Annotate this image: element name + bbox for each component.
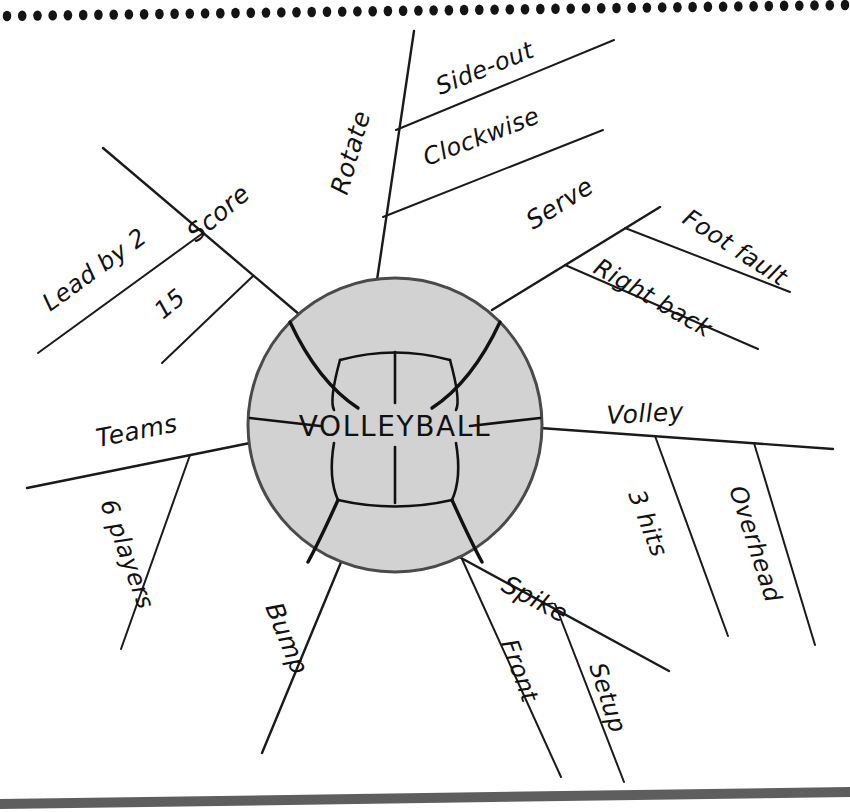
branch-bump[interactable]: Bump xyxy=(259,555,344,753)
binding-dot xyxy=(582,3,591,13)
branch-score[interactable]: Score Lead by 2 15 xyxy=(37,148,300,363)
sub-label-side-out: Side-out xyxy=(432,36,539,101)
binding-dot xyxy=(201,8,210,18)
binding-dot xyxy=(460,5,469,15)
branch-rotate[interactable]: Rotate Side-out Clockwise xyxy=(325,31,614,280)
branch-label-rotate: Rotate xyxy=(325,108,376,198)
binding-dot xyxy=(643,2,652,12)
sub-label-6-players: 6 players xyxy=(94,495,159,612)
binding-dot xyxy=(247,8,256,18)
binding-dot xyxy=(231,8,240,18)
mindmap-page: Score Lead by 2 15 Rotate Side-out Clock… xyxy=(0,0,850,812)
binding-dot xyxy=(536,4,545,14)
binding-dot xyxy=(445,5,454,15)
binding-dot xyxy=(125,9,134,19)
branch-label-serve: Serve xyxy=(521,171,599,235)
top-dotted-border xyxy=(3,0,850,21)
branch-line-rotate xyxy=(377,31,414,280)
binding-dot xyxy=(338,6,347,16)
binding-dot xyxy=(186,8,195,18)
binding-dot xyxy=(521,4,530,14)
branch-label-volley: Volley xyxy=(606,397,686,430)
binding-dot xyxy=(170,9,179,19)
branch-line-volley xyxy=(540,428,833,449)
binding-dot xyxy=(627,3,636,13)
branch-label-spike: Spike xyxy=(497,570,573,629)
binding-dot xyxy=(414,5,423,15)
binding-dot xyxy=(490,4,499,14)
binding-dot xyxy=(658,2,667,12)
branch-serve[interactable]: Serve Foot fault Right back xyxy=(492,171,793,349)
binding-dot xyxy=(277,7,286,17)
binding-dot xyxy=(704,2,713,12)
binding-dot xyxy=(48,10,57,20)
binding-dot xyxy=(368,6,377,16)
binding-dot xyxy=(673,2,682,12)
binding-dot xyxy=(612,3,621,13)
binding-dot xyxy=(79,10,88,20)
binding-dot xyxy=(3,11,12,21)
binding-dot xyxy=(216,8,225,18)
binding-dot xyxy=(749,1,758,11)
binding-dot xyxy=(688,2,697,12)
sub-label-right-back: Right back xyxy=(589,253,718,344)
branch-spike[interactable]: Spike Front Setup xyxy=(452,553,669,782)
binding-dot xyxy=(506,4,515,14)
sub-label-front: Front xyxy=(495,635,544,707)
binding-dot xyxy=(795,0,804,10)
branch-teams[interactable]: Teams 6 players xyxy=(27,409,250,649)
branch-label-teams: Teams xyxy=(94,409,180,453)
binding-dot xyxy=(109,9,118,19)
binding-dot xyxy=(94,10,103,20)
binding-dot xyxy=(765,1,774,11)
binding-dot xyxy=(551,4,560,14)
binding-dot xyxy=(140,9,149,19)
binding-dot xyxy=(841,0,850,10)
center-label: VOLLEYBALL xyxy=(299,410,491,443)
binding-dot xyxy=(719,1,728,11)
branch-line-teams xyxy=(27,443,250,488)
binding-dot xyxy=(566,3,575,13)
center-volleyball[interactable]: VOLLEYBALL xyxy=(248,278,542,572)
binding-dot xyxy=(780,1,789,11)
binding-dot xyxy=(429,5,438,15)
binding-dot xyxy=(307,7,316,17)
sub-label-lead-by-2: Lead by 2 xyxy=(37,223,152,317)
sub-label-foot-fault: Foot fault xyxy=(678,204,794,293)
binding-dot xyxy=(64,10,73,20)
sub-label-overhead: Overhead xyxy=(723,482,787,606)
binding-dot xyxy=(475,5,484,15)
binding-dot xyxy=(826,0,835,10)
binding-dot xyxy=(33,10,42,20)
binding-dot xyxy=(292,7,301,17)
binding-dot xyxy=(810,0,819,10)
binding-dot xyxy=(353,6,362,16)
binding-dot xyxy=(262,7,271,17)
mindmap-canvas: Score Lead by 2 15 Rotate Side-out Clock… xyxy=(0,0,850,812)
binding-dot xyxy=(734,1,743,11)
sub-label-3-hits: 3 hits xyxy=(622,486,673,561)
bottom-page-edge xyxy=(0,787,850,809)
sub-label-15: 15 xyxy=(149,283,191,325)
binding-dot xyxy=(18,11,27,21)
binding-dot xyxy=(597,3,606,13)
branch-volley[interactable]: Volley 3 hits Overhead xyxy=(540,397,833,645)
binding-dot xyxy=(155,9,164,19)
branch-label-score: Score xyxy=(181,179,255,248)
binding-dot xyxy=(384,6,393,16)
binding-dot xyxy=(323,7,332,17)
binding-dot xyxy=(399,6,408,16)
branch-label-bump: Bump xyxy=(259,598,314,678)
